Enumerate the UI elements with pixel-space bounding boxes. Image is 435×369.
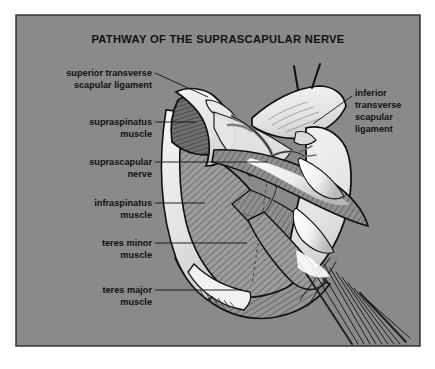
label-line: superior transverse bbox=[66, 68, 152, 78]
label-line: teres minor bbox=[102, 238, 152, 248]
label-line: suprascapular bbox=[89, 157, 152, 167]
label-line: scapular bbox=[355, 112, 393, 122]
label-line: muscle bbox=[120, 250, 152, 260]
label-line: supraspinatus bbox=[89, 117, 152, 127]
label-line: nerve bbox=[127, 169, 152, 179]
label-line: inferior bbox=[355, 88, 387, 98]
label-line: transverse bbox=[355, 100, 401, 110]
anatomy-figure: PATHWAY OF THE SUPRASCAPULAR NERVE super… bbox=[0, 0, 435, 369]
label-line: teres major bbox=[102, 285, 152, 295]
label-line: muscle bbox=[120, 297, 152, 307]
label-line: muscle bbox=[120, 129, 152, 139]
label-line: ligament bbox=[355, 124, 393, 134]
label-line: infraspinatus bbox=[94, 198, 152, 208]
label-line: muscle bbox=[120, 210, 152, 220]
figure-title: PATHWAY OF THE SUPRASCAPULAR NERVE bbox=[91, 33, 344, 45]
label-line: scapular ligament bbox=[74, 80, 152, 90]
